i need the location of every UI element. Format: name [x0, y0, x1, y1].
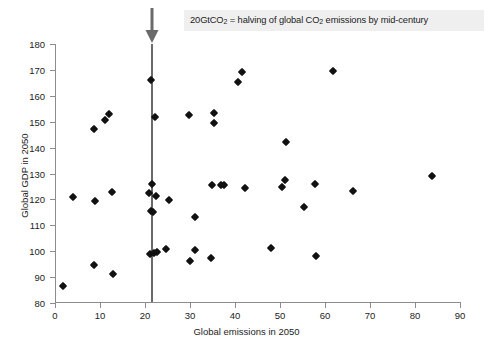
data-point-marker: [300, 203, 308, 211]
x-axis-tick-label: 20: [130, 310, 160, 321]
data-point-marker: [266, 244, 274, 252]
data-point-marker: [233, 78, 241, 86]
y-axis-tick: [50, 225, 55, 226]
data-point-marker: [152, 192, 160, 200]
y-axis-tick-label: 110: [5, 220, 45, 231]
data-point-marker: [207, 181, 215, 189]
y-axis-tick: [50, 277, 55, 278]
y-axis-tick-label: 90: [5, 272, 45, 283]
x-axis-tick-label: 30: [175, 310, 205, 321]
y-axis-tick: [50, 148, 55, 149]
plot-area: [55, 44, 460, 303]
data-point-marker: [148, 180, 156, 188]
y-axis-tick-label: 160: [5, 90, 45, 101]
data-point-marker: [109, 269, 117, 277]
x-axis-tick: [325, 303, 326, 308]
y-axis-tick: [50, 251, 55, 252]
data-point-marker: [69, 193, 77, 201]
data-point-marker: [210, 109, 218, 117]
x-axis-tick-label: 40: [220, 310, 250, 321]
data-point-marker: [190, 213, 198, 221]
data-point-marker: [161, 245, 169, 253]
x-axis-tick: [370, 303, 371, 308]
y-axis-tick-label: 80: [5, 298, 45, 309]
x-axis-tick: [460, 303, 461, 308]
data-point-marker: [329, 67, 337, 75]
y-axis-tick-label: 100: [5, 246, 45, 257]
y-axis-tick-label: 140: [5, 142, 45, 153]
data-point-marker: [311, 252, 319, 260]
y-axis-tick-label: 180: [5, 39, 45, 50]
y-axis-tick: [50, 199, 55, 200]
scatter-chart-figure: 20GtCO2 = halving of global CO2 emission…: [0, 0, 493, 343]
data-point-marker: [89, 125, 97, 133]
data-point-marker: [185, 257, 193, 265]
data-point-marker: [59, 281, 67, 289]
data-point-marker: [90, 196, 98, 204]
x-axis-tick: [190, 303, 191, 308]
y-axis-tick: [50, 44, 55, 45]
x-axis-tick-label: 80: [400, 310, 430, 321]
y-axis-tick: [50, 122, 55, 123]
y-axis-tick: [50, 70, 55, 71]
data-point-marker: [210, 119, 218, 127]
x-axis-tick-label: 90: [445, 310, 475, 321]
data-point-marker: [310, 180, 318, 188]
x-axis-tick: [235, 303, 236, 308]
x-axis-tick-label: 50: [265, 310, 295, 321]
data-point-marker: [428, 172, 436, 180]
data-point-marker: [147, 75, 155, 83]
x-axis-tick: [55, 303, 56, 308]
x-axis-tick: [280, 303, 281, 308]
x-axis-tick: [145, 303, 146, 308]
x-axis-tick-label: 0: [40, 310, 70, 321]
data-point-marker: [107, 188, 115, 196]
data-point-marker: [349, 187, 357, 195]
y-axis-tick-label: 130: [5, 168, 45, 179]
y-axis-tick: [50, 174, 55, 175]
data-point-marker: [165, 196, 173, 204]
data-point-marker: [241, 184, 249, 192]
x-axis-tick-label: 60: [310, 310, 340, 321]
threshold-annotation-box: 20GtCO2 = halving of global CO2 emission…: [184, 10, 484, 31]
x-axis-title: Global emissions in 2050: [0, 326, 493, 337]
data-point-marker: [90, 261, 98, 269]
data-point-marker: [282, 137, 290, 145]
y-axis-tick-label: 170: [5, 64, 45, 75]
y-axis-tick: [50, 96, 55, 97]
data-point-marker: [238, 68, 246, 76]
x-axis-tick-label: 10: [85, 310, 115, 321]
data-point-marker: [207, 254, 215, 262]
y-axis-tick-label: 120: [5, 194, 45, 205]
data-point-marker: [151, 113, 159, 121]
down-arrow-icon: [142, 8, 162, 44]
data-point-marker: [191, 246, 199, 254]
y-axis-tick-label: 150: [5, 116, 45, 127]
x-axis-tick-label: 70: [355, 310, 385, 321]
threshold-annotation-label: 20GtCO2 = halving of global CO2 emission…: [190, 15, 428, 25]
x-axis-tick: [100, 303, 101, 308]
data-point-marker: [185, 111, 193, 119]
x-axis-tick: [415, 303, 416, 308]
